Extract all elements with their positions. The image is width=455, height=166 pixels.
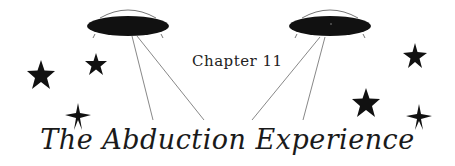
chapter-title: The Abduction Experience — [0, 124, 455, 155]
star-icon — [403, 43, 427, 68]
star-icon — [27, 60, 55, 89]
left-saucer-icon — [87, 10, 204, 120]
chapter-header-page: Chapter 11 The Abduction Experience — [0, 0, 455, 166]
star-icon — [352, 88, 380, 117]
chapter-label: Chapter 11 — [192, 52, 283, 70]
star-icon — [85, 53, 107, 75]
